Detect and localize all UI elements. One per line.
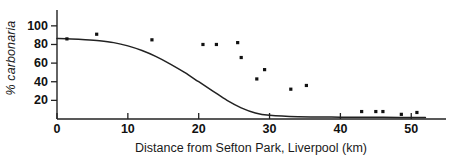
data-point-marker (201, 43, 204, 46)
x-axis-ticks (57, 113, 411, 119)
x-tick-label: 10 (121, 122, 135, 136)
data-point-marker (381, 110, 384, 113)
data-point-marker (360, 110, 363, 113)
data-point-marker (374, 110, 377, 113)
x-tick-label: 40 (333, 122, 347, 136)
data-point-marker (240, 56, 243, 59)
x-tick-label: 50 (404, 122, 418, 136)
chart-figure: % carbonaria Distance from Sefton Park, … (0, 0, 452, 163)
y-axis-label-container: % carbonaria (0, 28, 24, 114)
data-point-marker (215, 43, 218, 46)
data-point-marker (289, 88, 292, 91)
y-tick-label: 60 (34, 56, 48, 70)
x-tick-label: 0 (54, 122, 61, 136)
y-tick-label: 80 (34, 37, 48, 51)
x-tick-label: 30 (263, 122, 277, 136)
data-point-marker (65, 37, 68, 40)
y-axis-label: % carbonaria (4, 8, 20, 108)
x-axis-label: Distance from Sefton Park, Liverpool (km… (57, 141, 445, 155)
data-point-marker (263, 68, 266, 71)
data-point-marker (400, 113, 403, 116)
chart-plot-area (0, 0, 452, 163)
y-tick-label: 20 (34, 93, 48, 107)
data-point-marker (95, 33, 98, 36)
data-point-marker (255, 77, 258, 80)
data-point-marker (150, 38, 153, 41)
y-axis-ticks (51, 26, 57, 101)
scatter-data-points (65, 33, 418, 116)
fitted-cline-curve (57, 38, 425, 117)
y-tick-label: 40 (34, 75, 48, 89)
x-tick-label: 20 (192, 122, 206, 136)
data-point-marker (236, 41, 239, 44)
data-point-marker (305, 84, 308, 87)
data-point-marker (415, 111, 418, 114)
y-tick-label: 100 (27, 19, 48, 33)
